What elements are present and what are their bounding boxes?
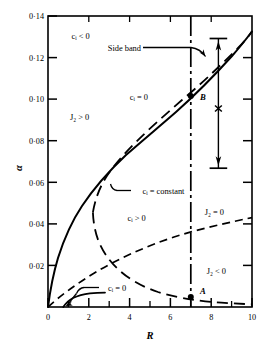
- label-ci-constant: cᵢ = constant: [143, 187, 186, 196]
- chart-svg: 0·14 0·12 0·10 0·08 0·06 0·04 0·02: [0, 0, 270, 354]
- x-tick-label: 4: [128, 313, 132, 322]
- y-tick-label: 0·02: [29, 262, 44, 271]
- point-label-B: B: [199, 92, 206, 102]
- y-axis-title: α: [13, 165, 24, 171]
- y-axis-tick-labels: 0·14 0·12 0·10 0·08 0·06 0·04 0·02: [29, 12, 44, 270]
- point-label-A: A: [199, 286, 206, 296]
- stability-diagram-figure: 0·14 0·12 0·10 0·08 0·06 0·04 0·02: [0, 0, 270, 354]
- x-axis-tick-labels: 0 2 4 6 8 10: [46, 313, 256, 322]
- x-tick-label: 2: [87, 313, 91, 322]
- label-side-band: Side band: [108, 44, 142, 53]
- x-tick-label: 10: [248, 313, 256, 322]
- label-J2-less-than-zero: J₂ < 0: [207, 267, 226, 276]
- x-tick-label: 8: [209, 313, 213, 322]
- y-tick-label: 0·06: [29, 179, 44, 188]
- x-tick-label: 6: [168, 313, 172, 322]
- y-tick-label: 0·08: [29, 137, 44, 146]
- y-tick-label: 0·10: [29, 95, 44, 104]
- marker-point-A: [188, 294, 194, 300]
- x-axis-title: R: [145, 330, 153, 341]
- y-tick-label: 0·04: [29, 220, 44, 229]
- label-ci-less-than-zero: cᵢ < 0: [72, 32, 90, 41]
- label-J2-equals-zero: J₂ = 0: [205, 208, 224, 217]
- label-ci-equals-zero-lower: cᵢ = 0: [108, 284, 126, 293]
- label-ci-equals-zero-upper: cᵢ = 0: [130, 93, 148, 102]
- plot-frame: [48, 16, 252, 307]
- y-tick-label: 0·12: [29, 54, 44, 63]
- x-tick-label: 0: [46, 313, 50, 322]
- label-J2-greater-than-zero: J₂ > 0: [70, 113, 89, 122]
- y-tick-label: 0·14: [29, 12, 44, 21]
- label-ci-greater-than-zero: cᵢ > 0: [128, 214, 146, 223]
- marker-point-B: [188, 93, 194, 99]
